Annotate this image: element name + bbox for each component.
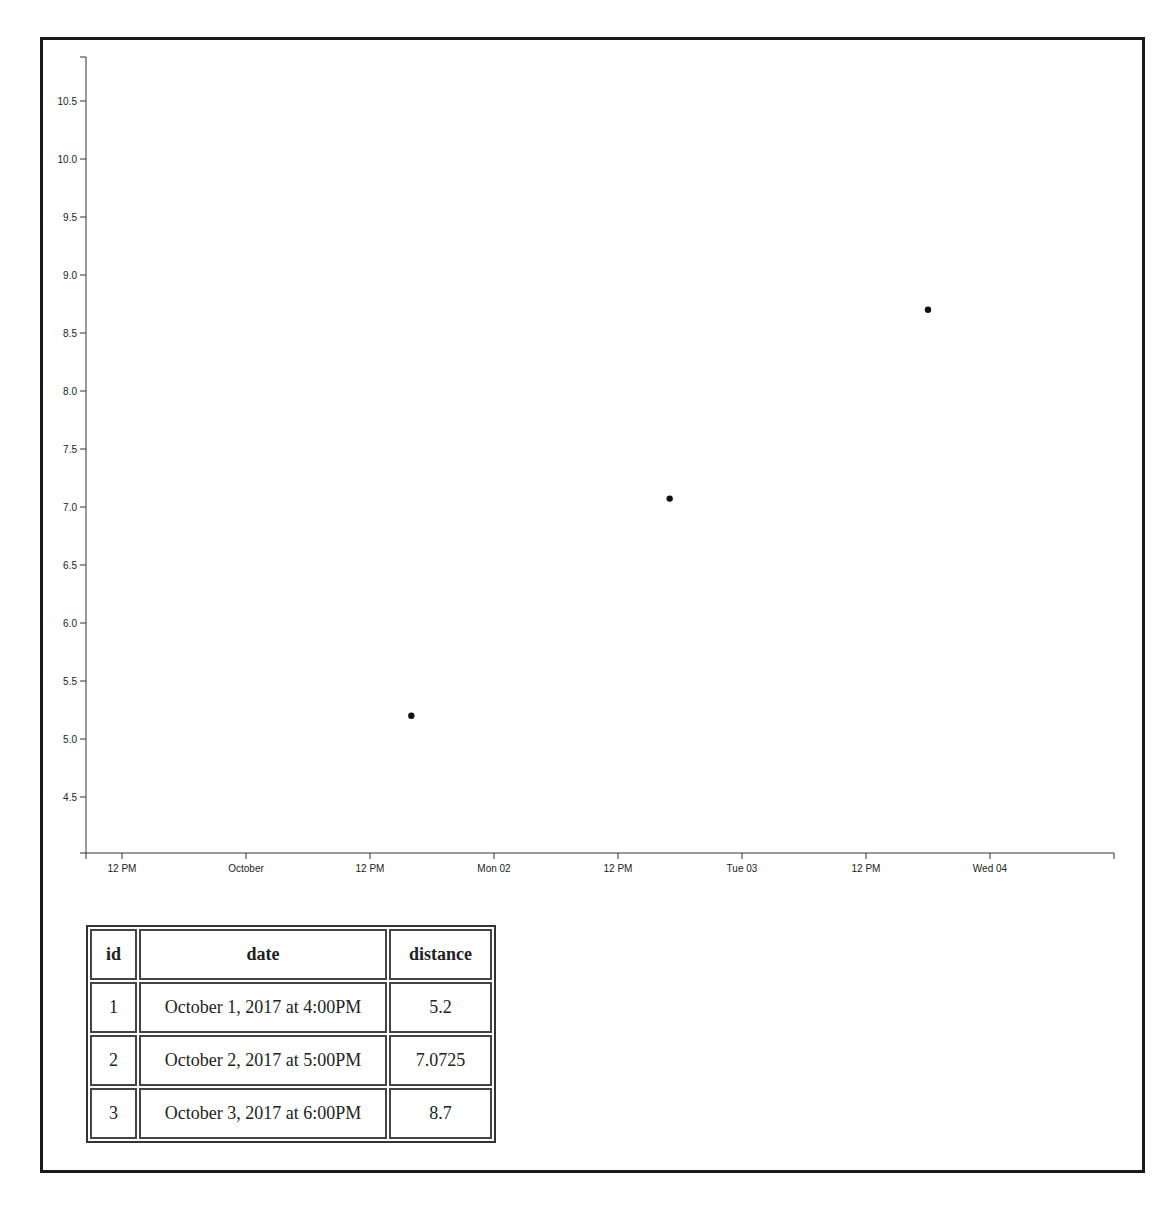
cell-date: October 3, 2017 at 6:00PM — [139, 1088, 387, 1139]
cell-date: October 1, 2017 at 4:00PM — [139, 982, 387, 1033]
table-row: 3 October 3, 2017 at 6:00PM 8.7 — [90, 1088, 492, 1139]
x-tick-label: 12 PM — [356, 863, 385, 874]
x-axis-domain — [86, 853, 1114, 859]
y-tick: 4.5 — [63, 792, 86, 803]
x-tick: 12 PM — [852, 853, 881, 874]
table-header-row: id date distance — [90, 929, 492, 980]
y-axis: 4.55.05.56.06.57.07.58.08.59.09.510.010.… — [58, 57, 86, 853]
x-tick-label: Tue 03 — [727, 863, 758, 874]
y-tick-label: 8.0 — [63, 386, 77, 397]
column-header-id: id — [90, 929, 137, 980]
y-tick: 6.0 — [63, 618, 86, 629]
cell-id: 3 — [90, 1088, 137, 1139]
y-tick: 5.5 — [63, 676, 86, 687]
data-points — [408, 307, 931, 719]
y-tick-label: 6.5 — [63, 560, 77, 571]
x-tick: 12 PM — [356, 853, 385, 874]
x-tick-label: 12 PM — [604, 863, 633, 874]
y-tick: 10.0 — [58, 154, 86, 165]
y-tick: 7.0 — [63, 502, 86, 513]
x-tick: Tue 03 — [727, 853, 758, 874]
x-tick-label: October — [228, 863, 264, 874]
y-tick-label: 9.5 — [63, 212, 77, 223]
y-tick: 5.0 — [63, 734, 86, 745]
table-row: 2 October 2, 2017 at 5:00PM 7.0725 — [90, 1035, 492, 1086]
y-tick-label: 10.5 — [58, 96, 78, 107]
y-tick-label: 5.0 — [63, 734, 77, 745]
x-axis: 12 PMOctober12 PMMon 0212 PMTue 0312 PMW… — [86, 853, 1114, 874]
x-tick-label: Wed 04 — [973, 863, 1008, 874]
y-tick: 10.5 — [58, 96, 86, 107]
y-tick-label: 4.5 — [63, 792, 77, 803]
cell-distance: 8.7 — [389, 1088, 492, 1139]
x-tick: October — [228, 853, 264, 874]
cell-distance: 5.2 — [389, 982, 492, 1033]
cell-distance: 7.0725 — [389, 1035, 492, 1086]
data-point — [666, 495, 672, 501]
column-header-distance: distance — [389, 929, 492, 980]
x-tick: Mon 02 — [477, 853, 511, 874]
x-tick-label: Mon 02 — [477, 863, 511, 874]
data-point — [925, 307, 931, 313]
x-tick-label: 12 PM — [108, 863, 137, 874]
data-table: id date distance 1 October 1, 2017 at 4:… — [86, 925, 496, 1143]
y-tick: 9.0 — [63, 270, 86, 281]
x-tick: Wed 04 — [973, 853, 1008, 874]
table-row: 1 October 1, 2017 at 4:00PM 5.2 — [90, 982, 492, 1033]
y-tick-label: 10.0 — [58, 154, 78, 165]
y-tick-label: 7.5 — [63, 444, 77, 455]
column-header-date: date — [139, 929, 387, 980]
y-tick: 7.5 — [63, 444, 86, 455]
cell-id: 1 — [90, 982, 137, 1033]
y-tick-label: 5.5 — [63, 676, 77, 687]
y-tick-label: 8.5 — [63, 328, 77, 339]
y-tick: 8.0 — [63, 386, 86, 397]
x-tick-label: 12 PM — [852, 863, 881, 874]
y-tick: 6.5 — [63, 560, 86, 571]
y-tick-label: 7.0 — [63, 502, 77, 513]
data-point — [408, 713, 414, 719]
y-tick: 8.5 — [63, 328, 86, 339]
x-tick: 12 PM — [604, 853, 633, 874]
y-axis-domain — [80, 57, 86, 853]
cell-id: 2 — [90, 1035, 137, 1086]
y-tick-label: 6.0 — [63, 618, 77, 629]
cell-date: October 2, 2017 at 5:00PM — [139, 1035, 387, 1086]
x-tick: 12 PM — [108, 853, 137, 874]
y-tick-label: 9.0 — [63, 270, 77, 281]
scatter-chart: 4.55.05.56.06.57.07.58.08.59.09.510.010.… — [0, 0, 1171, 900]
y-tick: 9.5 — [63, 212, 86, 223]
